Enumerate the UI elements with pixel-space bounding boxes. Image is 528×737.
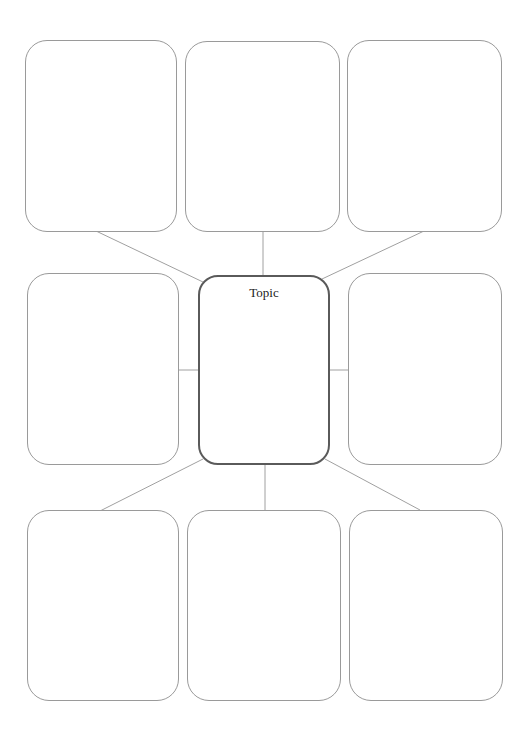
center-topic-box: Topic <box>198 275 330 465</box>
connector-top-right <box>322 231 424 279</box>
outer-box-top-right <box>347 40 502 232</box>
outer-box-bottom-left <box>27 510 179 701</box>
topic-label: Topic <box>200 285 328 301</box>
spider-map-diagram: Topic <box>0 0 528 737</box>
outer-box-top-left <box>25 40 177 232</box>
connector-bottom-right <box>325 459 420 510</box>
outer-box-middle-right <box>348 273 502 465</box>
connector-bottom-left <box>100 459 203 511</box>
outer-box-bottom-right <box>349 510 503 701</box>
outer-box-bottom-center <box>187 510 341 701</box>
outer-box-top-center <box>185 41 340 232</box>
outer-box-middle-left <box>27 273 179 465</box>
